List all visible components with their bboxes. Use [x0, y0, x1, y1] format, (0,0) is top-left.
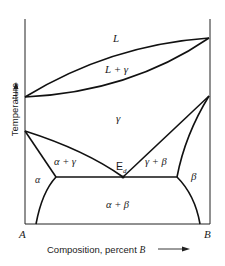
- eutectoid-label: Ed: [116, 161, 127, 175]
- y-axis-label: Temperature: [9, 70, 20, 150]
- region-label-alpha-beta: α + β: [106, 200, 129, 211]
- region-label-beta: β: [191, 171, 196, 182]
- axis-end-label-b: B: [204, 229, 211, 240]
- eutectoid-label-main: E: [116, 160, 123, 172]
- x-axis-label-var: B: [139, 245, 145, 255]
- x-axis-label: Composition, percent B: [47, 244, 145, 255]
- region-label-alpha: α: [35, 175, 40, 185]
- beta-gamma-solvus: [177, 96, 209, 177]
- region-label-gamma-beta: γ + β: [145, 157, 167, 168]
- x-axis-label-text: Composition, percent: [47, 244, 139, 255]
- region-label-liquid: L: [113, 33, 119, 44]
- eutectoid-label-sub: d: [123, 167, 127, 175]
- region-label-alpha-gamma: α + γ: [54, 157, 76, 168]
- region-label-liquid-gamma: L + γ: [105, 64, 128, 75]
- x-arrow-head: [182, 247, 190, 252]
- region-label-gamma: γ: [116, 113, 120, 124]
- beta-solvus: [177, 177, 200, 224]
- alpha-gamma-solvus: [25, 131, 56, 177]
- eutectoid-point: [121, 175, 124, 178]
- axis-end-label-a: A: [19, 229, 26, 240]
